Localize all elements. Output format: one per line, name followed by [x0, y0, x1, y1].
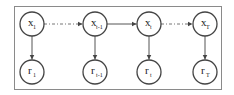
node-xtm1: xt-1 — [83, 12, 107, 36]
node-subscript: 1 — [33, 24, 36, 30]
node-label: r — [28, 64, 32, 76]
nodes: x1xt-1xtxTr1rt-1rtrT — [20, 12, 217, 84]
edges — [32, 24, 205, 60]
node-label: r — [91, 64, 95, 76]
node-rT: rT — [193, 60, 217, 84]
node-subscript: 1 — [33, 72, 36, 78]
node-label: r — [145, 64, 149, 76]
node-circle — [20, 60, 44, 84]
node-rt: rt — [137, 60, 161, 84]
node-subscript: t-1 — [96, 72, 103, 78]
node-subscript: t-1 — [96, 24, 103, 30]
plate-frame — [15, 7, 222, 90]
node-xT: xT — [193, 12, 217, 36]
node-circle — [137, 60, 161, 84]
node-r1: r1 — [20, 60, 44, 84]
node-circle — [83, 60, 107, 84]
node-circle — [193, 60, 217, 84]
node-x1: x1 — [20, 12, 44, 36]
node-rtm1: rt-1 — [83, 60, 107, 84]
node-xt: xt — [137, 12, 161, 36]
node-label: r — [201, 64, 205, 76]
chain-diagram: x1xt-1xtxTr1rt-1rtrT — [0, 0, 234, 95]
node-subscript: T — [206, 72, 210, 78]
node-subscript: T — [206, 24, 210, 30]
